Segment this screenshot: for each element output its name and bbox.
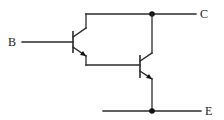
q2-collector-lead xyxy=(140,53,152,61)
collector-label: C xyxy=(200,7,208,21)
q2-emitter-arrow-icon xyxy=(146,74,152,79)
emitter-label: E xyxy=(205,104,212,118)
transistor-q2 xyxy=(140,14,152,111)
transistor-q1 xyxy=(73,14,86,65)
emitter-junction-dot xyxy=(149,108,155,114)
base-label: B xyxy=(8,35,16,49)
q1-collector-lead xyxy=(73,28,86,37)
darlington-circuit: B C E xyxy=(0,0,224,120)
